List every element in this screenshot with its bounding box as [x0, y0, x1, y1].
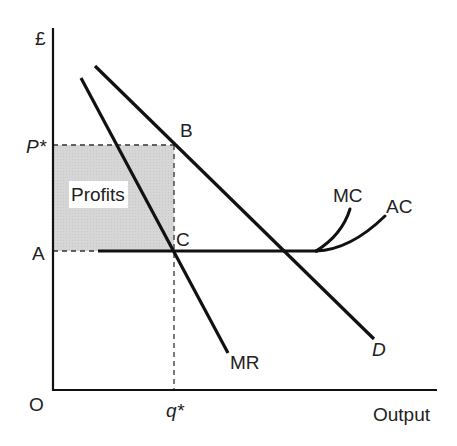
price-label: P*	[26, 136, 47, 157]
ac-label: AC	[386, 196, 412, 217]
origin-label: O	[29, 394, 44, 415]
y-axis-label: £	[35, 28, 46, 49]
mc-label: MC	[333, 185, 363, 206]
point-b-label: B	[180, 120, 193, 141]
x-axis-label: Output	[373, 404, 431, 425]
mr-label: MR	[230, 352, 260, 373]
quantity-label: q*	[166, 400, 185, 421]
cost-level-label: A	[32, 243, 45, 264]
profits-label: Profits	[71, 184, 125, 205]
demand-label: D	[372, 339, 386, 360]
diagram-canvas: Profits £ P* A O q* Output B C MC AC D M…	[0, 0, 457, 446]
ac-curve	[316, 216, 385, 251]
point-c-label: C	[176, 229, 190, 250]
